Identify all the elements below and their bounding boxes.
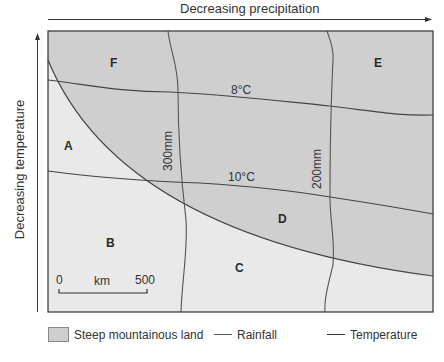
x-axis-label: Decreasing precipitation — [180, 1, 319, 16]
x-axis-arrow — [48, 17, 432, 22]
rainfall-line-icon — [214, 334, 232, 335]
temperature-line-icon — [327, 334, 345, 335]
isohyet-label-300mm: 300mm — [161, 126, 175, 176]
legend-item-mountainous: Steep mountainous land — [48, 327, 203, 342]
region-label-c: C — [235, 261, 244, 275]
scale-label-start: 0 — [56, 273, 63, 287]
legend-label-temperature: Temperature — [350, 328, 417, 342]
isotherm-label-10c: 10°C — [228, 170, 255, 184]
mountain-swatch-icon — [48, 327, 69, 342]
legend-item-rainfall: Rainfall — [214, 327, 277, 342]
region-label-e: E — [374, 56, 382, 70]
isohyet-label-200mm: 200mm — [310, 144, 324, 194]
region-label-f: F — [110, 56, 117, 70]
legend-label-rainfall: Rainfall — [237, 328, 277, 342]
legend: Steep mountainous land Rainfall Temperat… — [48, 327, 444, 347]
region-label-d: D — [278, 212, 287, 226]
y-axis-arrow — [35, 33, 40, 312]
y-axis-label: Decreasing temperature — [12, 95, 27, 245]
region-label-a: A — [64, 139, 73, 153]
scale-label-end: 500 — [135, 273, 155, 287]
region-label-b: B — [106, 236, 115, 250]
isotherm-label-8c: 8°C — [231, 83, 251, 97]
legend-item-temperature: Temperature — [327, 327, 417, 342]
diagram-canvas — [0, 0, 444, 362]
legend-label-mountainous: Steep mountainous land — [74, 328, 203, 342]
scale-label-unit: km — [94, 274, 110, 288]
